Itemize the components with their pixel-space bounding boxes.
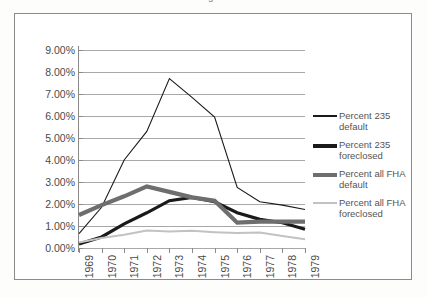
thin-black-line-icon [313, 115, 337, 117]
x-axis-tick [215, 248, 216, 253]
legend-item: Percent all FHA default [313, 168, 411, 190]
x-axis-tick [169, 248, 170, 253]
y-axis-tick [79, 204, 83, 205]
x-axis-tick [192, 248, 193, 253]
legend-swatch-wrap [313, 197, 339, 204]
thick-gray-line-icon [313, 173, 337, 177]
x-axis-tick-label: 1970 [107, 255, 118, 278]
y-axis-tick [79, 72, 83, 73]
x-axis-tick [102, 248, 103, 253]
x-axis-tick [282, 248, 283, 253]
x-axis-tick-label: 1972 [152, 255, 163, 278]
y-axis-tick [79, 94, 83, 95]
chart-frame: 9.00%8.00%7.00%6.00%5.00%4.00%3.00%2.00%… [14, 13, 412, 280]
y-axis-tick [79, 160, 83, 161]
legend-item-label: Percent all FHA foreclosed [339, 197, 411, 219]
y-axis-tick [79, 138, 83, 139]
x-axis-tick-label: 1971 [129, 255, 140, 278]
x-axis-tick [79, 248, 80, 253]
thick-black-line-icon [313, 144, 337, 148]
x-axis-tick [237, 248, 238, 253]
x-axis-tick [147, 248, 148, 253]
legend-item: Percent 235 foreclosed [313, 139, 411, 161]
series-line-2 [79, 186, 305, 222]
x-axis-tick-label: 1979 [310, 255, 321, 278]
thin-light-gray-line-icon [313, 202, 337, 204]
x-axis-tick [124, 248, 125, 253]
x-axis-tick-label: 1978 [287, 255, 298, 278]
legend-item-label: Percent 235 foreclosed [339, 139, 411, 161]
legend-item: Percent all FHA foreclosed [313, 197, 411, 219]
title-fragment-text: Figure [201, 0, 227, 2]
x-axis-tick-label: 1977 [265, 255, 276, 278]
chart-legend: Percent 235 defaultPercent 235 foreclose… [313, 110, 411, 226]
legend-swatch-wrap [313, 168, 339, 177]
y-axis-tick [79, 50, 83, 51]
x-axis-tick-label: 1973 [174, 255, 185, 278]
legend-item-label: Percent all FHA default [339, 168, 411, 190]
x-axis-tick-label: 1976 [242, 255, 253, 278]
x-axis-tick [260, 248, 261, 253]
x-axis-tick [305, 248, 306, 253]
series-line-0 [79, 79, 305, 234]
x-axis-tick-label: 1969 [84, 255, 95, 278]
x-axis-tick-label: 1974 [197, 255, 208, 278]
legend-swatch-wrap [313, 110, 339, 117]
legend-swatch-wrap [313, 139, 339, 148]
y-axis-tick [79, 116, 83, 117]
y-axis-tick [79, 226, 83, 227]
y-axis-tick [79, 182, 83, 183]
x-axis-tick-label: 1975 [220, 255, 231, 278]
cropped-title-fragment: Figure [0, 0, 427, 12]
legend-item-label: Percent 235 default [339, 110, 411, 132]
legend-item: Percent 235 default [313, 110, 411, 132]
